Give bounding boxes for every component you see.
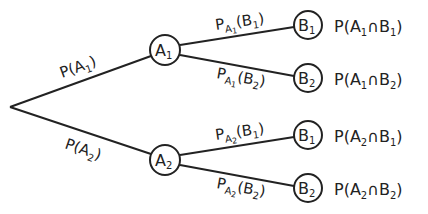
- probability-tree-diagram: P(A1) P(A2) A1 A2 PA1(B1) PA1(B2) PA2(B1…: [0, 0, 428, 214]
- result-a1-b1: P(A1∩B1): [334, 17, 403, 38]
- result-a1-b2: P(A1∩B2): [334, 70, 403, 91]
- node-a1-b1: B1: [294, 11, 322, 39]
- node-a2-b2: B2: [294, 174, 322, 202]
- edge-label-p-a2: P(A2): [62, 135, 104, 166]
- result-a2-b2: P(A2∩B2): [334, 180, 403, 201]
- node-a2-b1: B1: [294, 121, 322, 149]
- svg-text:P(A2): P(A2): [62, 135, 104, 166]
- result-a2-b1: P(A2∩B1): [334, 127, 403, 148]
- svg-text:P(A1): P(A1): [57, 52, 99, 84]
- edge-a2-b2: [180, 165, 294, 186]
- edge-label-p-a1: P(A1): [57, 52, 99, 84]
- edge-a1-b2: [180, 55, 294, 76]
- node-a1: A1: [150, 35, 180, 65]
- node-a2: A2: [150, 145, 180, 175]
- node-a1-b2: B2: [294, 64, 322, 92]
